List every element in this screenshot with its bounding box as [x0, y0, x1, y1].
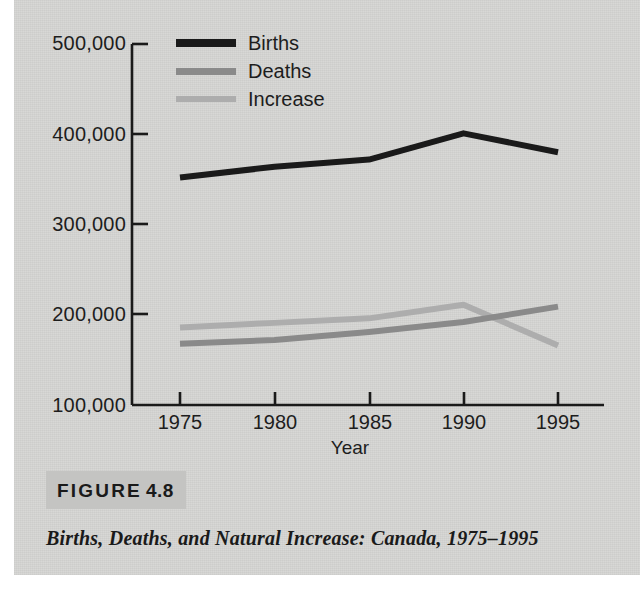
legend-swatch-deaths: [176, 68, 236, 75]
chart-legend: Births Deaths Increase: [176, 30, 436, 114]
x-axis-title-text: Year: [331, 437, 369, 458]
figure-page: 500,000 400,000 300,000 200,000 100,000: [0, 0, 640, 589]
y-axis-ticks: [132, 44, 148, 314]
legend-item-increase: Increase: [176, 86, 436, 112]
x-tick-label-1980: 1980: [253, 411, 298, 434]
x-tick-label-1985: 1985: [348, 411, 393, 434]
legend-label-increase: Increase: [248, 89, 325, 109]
figure-tag-number: 4.8: [146, 480, 174, 501]
figure-tag: FIGURE4.8: [57, 480, 174, 502]
legend-label-births: Births: [248, 33, 299, 53]
legend-label-deaths: Deaths: [248, 61, 311, 81]
x-tick-label-1990: 1990: [442, 411, 487, 434]
figure-tag-word: FIGURE: [57, 480, 142, 501]
page-bottom-margin: [0, 575, 640, 589]
series-line-births: [180, 133, 558, 177]
legend-swatch-births: [176, 39, 236, 47]
legend-item-births: Births: [176, 30, 436, 56]
x-axis-title: Year: [0, 437, 640, 459]
line-chart: 500,000 400,000 300,000 200,000 100,000: [0, 0, 640, 470]
figure-caption: Births, Deaths, and Natural Increase: Ca…: [46, 527, 616, 550]
x-axis-ticks: [180, 392, 558, 405]
legend-item-deaths: Deaths: [176, 58, 436, 84]
x-tick-label-1975: 1975: [158, 411, 203, 434]
legend-swatch-increase: [176, 96, 236, 102]
x-tick-label-1995: 1995: [536, 411, 581, 434]
